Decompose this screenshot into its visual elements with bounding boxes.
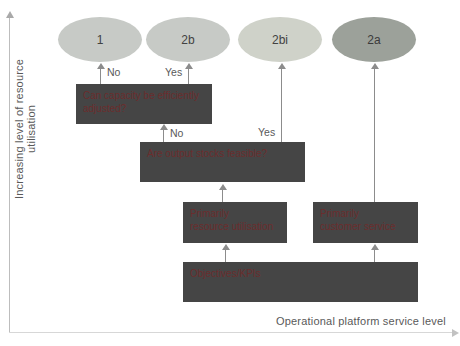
outcome-ellipse-1: 1 [58, 17, 142, 62]
edge-label-no-capacity: No [107, 66, 120, 78]
outcome-ellipse-2b: 2b [146, 17, 230, 62]
arrowhead-icon [371, 244, 379, 250]
arrowhead-icon [222, 244, 230, 250]
arrow-capacity-to-2b [188, 69, 189, 84]
arrow-resource-to-stocks [222, 190, 223, 202]
arrow-stocks-to-2bi [281, 69, 282, 142]
arrowhead-icon [371, 63, 379, 69]
arrowhead-icon [278, 63, 286, 69]
edge-label-yes-capacity: Yes [165, 66, 182, 78]
box-resource-utilisation: Primarily resource utilisation [183, 202, 287, 243]
arrowhead-icon [219, 184, 227, 190]
x-axis-line [9, 332, 452, 333]
box-stocks-question: Are output stocks feasible? [140, 142, 305, 182]
y-axis-line [9, 18, 10, 333]
edge-label-yes-stocks: Yes [258, 126, 275, 138]
y-axis-label: Increasing level of resource utilisation [13, 36, 37, 222]
arrowhead-icon [185, 63, 193, 69]
arrow-objectives-to-customer [374, 250, 375, 262]
arrow-objectives-to-resource [225, 250, 226, 262]
box-objectives-kpis: Objectives/KPIs [183, 262, 418, 302]
outcome-ellipse-2bi: 2bi [238, 17, 322, 62]
arrowhead-icon [160, 124, 168, 130]
x-axis-arrowhead-icon [452, 329, 459, 337]
y-axis-arrowhead-icon [6, 11, 14, 18]
arrow-stocks-to-capacity [163, 130, 164, 142]
box-customer-service: Primarily customer service [313, 202, 418, 243]
arrow-capacity-to-1 [100, 69, 101, 84]
x-axis-label: Operational platform service level [276, 315, 446, 327]
edge-label-no-stocks: No [170, 127, 183, 139]
flowchart-diagram: Increasing level of resource utilisation… [0, 0, 460, 346]
box-capacity-question: Can capacity be efficiently adjusted? [76, 84, 212, 124]
arrow-customer-to-2a [374, 69, 375, 202]
outcome-ellipse-2a: 2a [332, 17, 416, 62]
arrowhead-icon [97, 63, 105, 69]
